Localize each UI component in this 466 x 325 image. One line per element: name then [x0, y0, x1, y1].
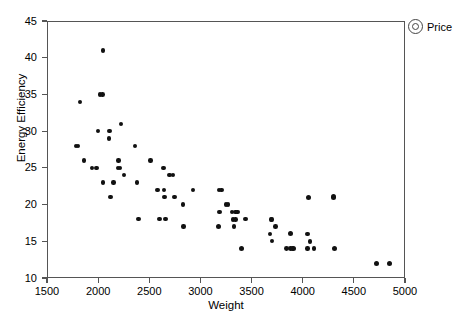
y-tick-label: 45 — [5, 16, 37, 27]
y-tick-mark — [42, 241, 47, 242]
x-tick-label: 1500 — [23, 286, 71, 297]
x-tick-label: 4000 — [279, 286, 327, 297]
x-tick-label: 2000 — [74, 286, 122, 297]
x-tick-mark — [46, 278, 47, 283]
y-tick-mark — [42, 204, 47, 205]
x-tick-label: 5000 — [381, 286, 429, 297]
y-tick-label: 10 — [5, 273, 37, 284]
x-tick-mark — [404, 278, 405, 283]
x-tick-mark — [302, 278, 303, 283]
x-tick-mark — [200, 278, 201, 283]
scatter-chart-figure: 1015202530354045 15002000250030003500400… — [0, 0, 466, 325]
y-tick-mark — [42, 94, 47, 95]
y-tick-mark — [42, 131, 47, 132]
plot-area-frame — [47, 21, 405, 278]
x-tick-label: 3500 — [228, 286, 276, 297]
legend: Price — [408, 15, 466, 39]
y-tick-mark — [42, 57, 47, 58]
y-tick-mark — [42, 20, 47, 21]
legend-circle-inner-icon — [412, 23, 419, 30]
legend-circle-icon — [408, 19, 425, 36]
x-tick-label: 4500 — [330, 286, 378, 297]
y-tick-mark — [42, 167, 47, 168]
x-tick-label: 3000 — [176, 286, 224, 297]
y-tick-label: 20 — [5, 199, 37, 210]
x-tick-mark — [251, 278, 252, 283]
x-tick-mark — [353, 278, 354, 283]
x-axis-title: Weight — [47, 299, 405, 311]
x-tick-mark — [98, 278, 99, 283]
x-tick-mark — [149, 278, 150, 283]
y-axis-title: Energy Efficiency — [15, 53, 27, 183]
y-tick-label: 15 — [5, 236, 37, 247]
legend-label: Price — [427, 21, 452, 33]
x-tick-label: 2500 — [125, 286, 173, 297]
